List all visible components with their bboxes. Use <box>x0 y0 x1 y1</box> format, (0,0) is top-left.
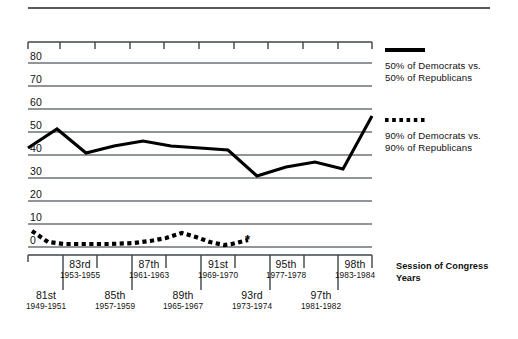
xtick-years: 1983-1984 <box>325 270 385 280</box>
ytick-label-0: 0 <box>30 235 36 246</box>
ytick-label-10: 10 <box>30 212 42 223</box>
legend-swatch-dotted-line <box>385 118 427 122</box>
legend-label-50-percent-line1: 50% of Democrats vs. <box>385 60 481 72</box>
xtick-years: 1969-1970 <box>188 270 248 280</box>
xtick-label-93rd: 93rd 1973-1974 <box>222 289 282 311</box>
ytick-label-60: 60 <box>30 97 42 108</box>
ytick-label-40: 40 <box>30 143 42 154</box>
legend-label-50-percent-line2: 50% of Republicans <box>385 72 481 84</box>
gridlines <box>28 63 372 247</box>
ytick-label-70: 70 <box>30 74 42 85</box>
xtick-session: 89th <box>153 289 213 301</box>
xtick-session: 87th <box>119 258 179 270</box>
xtick-session: 98th <box>325 258 385 270</box>
xtick-session: 83rd <box>50 258 110 270</box>
asterisk-annotation: * <box>245 232 251 247</box>
ytick-label-20: 20 <box>30 189 42 200</box>
xtick-session: 95th <box>256 258 316 270</box>
xtick-label-83rd: 83rd 1953-1955 <box>50 258 110 280</box>
legend-swatch-solid-line <box>385 48 425 52</box>
ytick-label-50: 50 <box>30 120 42 131</box>
xtick-label-85th: 85th 1957-1959 <box>85 289 145 311</box>
x-axis-title-line2: Years <box>396 273 488 285</box>
x-axis-title: Session of Congress Years <box>396 261 488 284</box>
xtick-label-87th: 87th 1961-1963 <box>119 258 179 280</box>
x-axis-title-line1: Session of Congress <box>396 261 488 273</box>
xtick-session: 91st <box>188 258 248 270</box>
xtick-label-97th: 97th 1981-1982 <box>291 289 351 311</box>
xtick-session: 97th <box>291 289 351 301</box>
xtick-label-89th: 89th 1965-1967 <box>153 289 213 311</box>
xtick-label-91st: 91st 1969-1970 <box>188 258 248 280</box>
xtick-years: 1961-1963 <box>119 270 179 280</box>
xtick-label-98th: 98th 1983-1984 <box>325 258 385 280</box>
figure-container: * 80 70 60 50 40 30 20 10 0 83rd 1953-19… <box>0 0 518 339</box>
top-axis <box>28 42 372 49</box>
xtick-years: 1957-1959 <box>85 301 145 311</box>
legend-entry-90-percent: 90% of Democrats vs. 90% of Republicans <box>385 118 481 155</box>
xtick-years: 1953-1955 <box>50 270 110 280</box>
xtick-session: 85th <box>85 289 145 301</box>
series-line-90-percent <box>32 231 248 245</box>
xtick-years: 1977-1978 <box>256 270 316 280</box>
xtick-years: 1981-1982 <box>291 301 351 311</box>
legend-entry-50-percent: 50% of Democrats vs. 50% of Republicans <box>385 48 481 84</box>
xtick-session: 81st <box>16 289 76 301</box>
xtick-years: 1965-1967 <box>153 301 213 311</box>
xtick-years: 1973-1974 <box>222 301 282 311</box>
xtick-session: 93rd <box>222 289 282 301</box>
ytick-label-30: 30 <box>30 166 42 177</box>
legend-label-90-percent-line2: 90% of Republicans <box>385 142 481 154</box>
ytick-label-80: 80 <box>30 51 42 62</box>
xtick-label-81st: 81st 1949-1951 <box>16 289 76 311</box>
legend-label-90-percent-line1: 90% of Democrats vs. <box>385 130 481 142</box>
xtick-years: 1949-1951 <box>16 301 76 311</box>
xtick-label-95th: 95th 1977-1978 <box>256 258 316 280</box>
series-line-50-percent <box>28 116 372 176</box>
